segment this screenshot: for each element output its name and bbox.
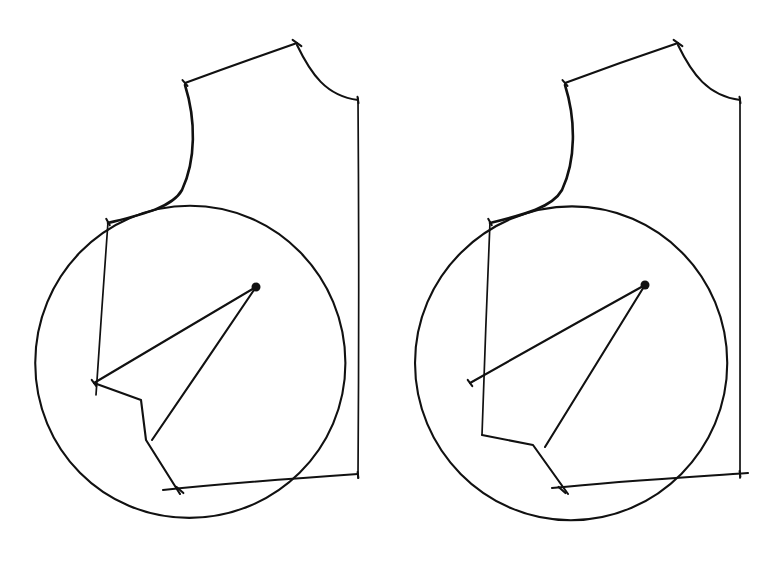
- drawing-canvas: [0, 0, 776, 563]
- tick-hem-right: [740, 471, 741, 477]
- right-vertical-line: [358, 98, 359, 478]
- diagram-svg: [0, 0, 776, 563]
- tick-armhole-right: [358, 97, 359, 103]
- apex-point: [641, 281, 650, 290]
- tick-hem-right: [358, 472, 359, 478]
- apex-point: [252, 283, 261, 292]
- tick-armhole-right: [740, 97, 741, 103]
